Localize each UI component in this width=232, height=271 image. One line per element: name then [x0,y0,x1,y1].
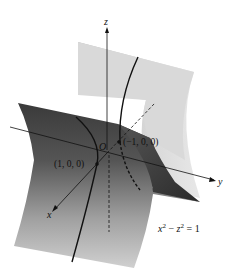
point-1-0-0 [95,162,99,166]
hyperbolic-cylinder-diagram: z y x O (1, 0, 0) (−1, 0, 0) x2 − z2 = 1 [0,0,232,271]
z-axis-arrow [105,27,109,33]
origin-label: O [99,141,106,152]
z-axis-label: z [103,16,108,27]
y-axis-label: y [217,176,223,187]
point-neg1-0-0 [117,140,121,144]
point-label-1-0-0: (1, 0, 0) [54,159,84,170]
equation-label: x2 − z2 = 1 [157,222,200,234]
y-axis-arrow [209,177,216,182]
x-axis-label: x [46,209,52,220]
point-label-neg1-0-0: (−1, 0, 0) [123,137,158,148]
